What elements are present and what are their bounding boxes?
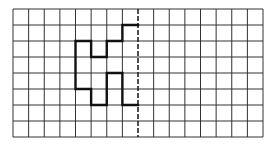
symmetry-grid-diagram: [0, 0, 276, 144]
